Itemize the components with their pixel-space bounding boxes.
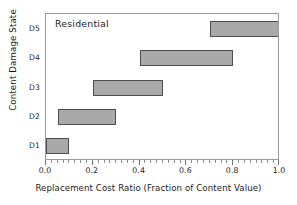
x-tick-major xyxy=(92,160,93,165)
x-tick-minor xyxy=(156,160,157,163)
x-tick-minor xyxy=(244,160,245,163)
x-tick-minor xyxy=(209,160,210,163)
x-tick-major xyxy=(45,160,46,165)
x-tick-minor xyxy=(109,160,110,163)
x-tick-minor xyxy=(74,160,75,163)
y-tick-label-d4: D4 xyxy=(20,53,40,62)
x-tick-minor xyxy=(127,160,128,163)
x-tick-label-5: 1.0 xyxy=(273,166,286,175)
x-tick-minor xyxy=(174,160,175,163)
y-tick-label-d3: D3 xyxy=(20,82,40,91)
x-tick-minor xyxy=(63,160,64,163)
x-tick-label-1: 0.2 xyxy=(85,166,98,175)
x-tick-minor xyxy=(215,160,216,163)
x-tick-minor xyxy=(197,160,198,163)
x-tick-minor xyxy=(238,160,239,163)
x-tick-minor xyxy=(273,160,274,163)
x-tick-minor xyxy=(86,160,87,163)
range-bar-d1 xyxy=(46,138,69,154)
y-axis-title: Content Damage State xyxy=(8,0,18,135)
x-tick-major xyxy=(185,160,186,165)
range-bar-d4 xyxy=(140,50,234,66)
y-tick-label-d1: D1 xyxy=(20,141,40,150)
chart-container: Content Damage State D1 D2 D3 D4 D5 Resi… xyxy=(0,0,297,205)
x-tick-minor xyxy=(191,160,192,163)
plot-area: Residential xyxy=(45,13,279,160)
x-tick-minor xyxy=(51,160,52,163)
plot-annotation-residential: Residential xyxy=(55,18,109,29)
x-tick-minor xyxy=(98,160,99,163)
x-tick-minor xyxy=(80,160,81,163)
x-tick-minor xyxy=(68,160,69,163)
x-tick-minor xyxy=(144,160,145,163)
x-axis-ticks xyxy=(45,160,279,166)
range-bar-d3 xyxy=(93,80,163,96)
y-axis-tick-labels: D1 D2 D3 D4 D5 xyxy=(20,13,40,160)
x-tick-minor xyxy=(168,160,169,163)
range-bar-d2 xyxy=(58,109,117,125)
x-tick-label-3: 0.6 xyxy=(179,166,192,175)
x-tick-minor xyxy=(115,160,116,163)
x-tick-minor xyxy=(133,160,134,163)
x-axis-title: Replacement Cost Ratio (Fraction of Cont… xyxy=(0,183,297,193)
x-tick-minor xyxy=(121,160,122,163)
y-tick-label-d5: D5 xyxy=(20,23,40,32)
x-tick-label-2: 0.4 xyxy=(132,166,145,175)
x-tick-minor xyxy=(57,160,58,163)
x-tick-label-4: 0.8 xyxy=(226,166,239,175)
x-tick-minor xyxy=(150,160,151,163)
x-tick-minor xyxy=(267,160,268,163)
x-tick-minor xyxy=(256,160,257,163)
x-tick-major xyxy=(232,160,233,165)
x-tick-minor xyxy=(221,160,222,163)
x-tick-minor xyxy=(180,160,181,163)
x-tick-major xyxy=(278,160,279,165)
x-tick-major xyxy=(139,160,140,165)
x-tick-minor xyxy=(104,160,105,163)
y-tick-label-d2: D2 xyxy=(20,111,40,120)
x-tick-label-0: 0.0 xyxy=(39,166,52,175)
x-tick-minor xyxy=(203,160,204,163)
x-tick-minor xyxy=(250,160,251,163)
range-bar-d5 xyxy=(210,21,279,37)
x-tick-minor xyxy=(226,160,227,163)
x-tick-minor xyxy=(261,160,262,163)
x-tick-minor xyxy=(162,160,163,163)
